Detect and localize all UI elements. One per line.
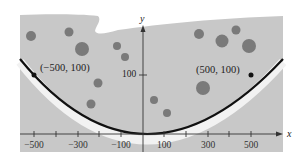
point-label-right: (500, 100) xyxy=(196,65,240,76)
terrain-region xyxy=(20,14,283,152)
x-tick-label: −100 xyxy=(111,141,131,151)
y-axis-label: y xyxy=(140,14,144,24)
x-tick-label: 500 xyxy=(244,141,258,151)
parabola-figure xyxy=(0,0,300,161)
x-axis-label: x xyxy=(287,129,291,139)
x-tick-label: −300 xyxy=(68,141,88,151)
x-tick-label: 100 xyxy=(157,141,171,151)
x-tick-label: −500 xyxy=(24,141,44,151)
y-tick-label-100: 100 xyxy=(122,70,136,80)
point-left xyxy=(32,73,37,78)
point-right xyxy=(249,73,254,78)
x-tick-label: 300 xyxy=(201,141,215,151)
point-label-left: (−500, 100) xyxy=(40,63,90,74)
